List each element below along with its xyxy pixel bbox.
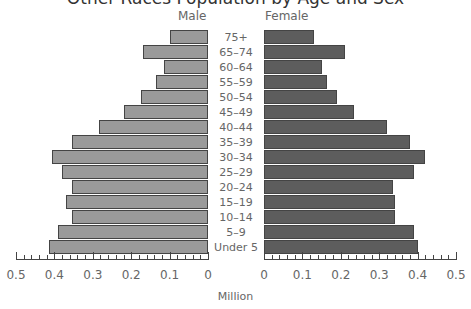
axis-tick — [395, 255, 396, 260]
male-bar — [124, 105, 208, 119]
female-tick-label: 0 — [260, 268, 268, 282]
x-axis-label: Million — [0, 290, 471, 303]
axis-tick — [418, 252, 419, 260]
age-group-label: 45–49 — [208, 105, 264, 120]
axis-tick — [154, 255, 155, 260]
male-bar — [72, 210, 208, 224]
axis-tick — [62, 255, 63, 260]
axis-tick — [31, 255, 32, 260]
male-tick-label: 0 — [204, 268, 212, 282]
male-bar — [58, 225, 208, 239]
male-bar — [49, 240, 208, 254]
axis-tick — [39, 255, 40, 260]
male-bar — [170, 30, 208, 44]
male-bar — [141, 90, 208, 104]
female-bar — [264, 150, 425, 164]
axis-tick — [100, 255, 101, 260]
male-tick-label: 0.5 — [6, 268, 25, 282]
male-tick-label: 0.4 — [45, 268, 64, 282]
male-x-axis — [16, 259, 209, 260]
axis-tick — [16, 252, 17, 260]
female-x-axis — [264, 259, 457, 260]
axis-tick — [433, 255, 434, 260]
age-group-label: 50–54 — [208, 90, 264, 105]
axis-tick — [264, 252, 265, 260]
axis-tick — [131, 252, 132, 260]
axis-tick — [302, 252, 303, 260]
axis-tick — [456, 252, 457, 260]
female-bar — [264, 180, 393, 194]
female-bar — [264, 165, 414, 179]
axis-tick — [177, 255, 178, 260]
female-label: Female — [265, 9, 308, 23]
age-group-label: 65–74 — [208, 45, 264, 60]
axis-tick — [310, 255, 311, 260]
axis-tick — [200, 255, 201, 260]
female-bar — [264, 195, 395, 209]
age-group-label: 25–29 — [208, 165, 264, 180]
female-bar — [264, 210, 395, 224]
axis-tick — [47, 255, 48, 260]
axis-tick — [279, 255, 280, 260]
male-bar — [164, 60, 208, 74]
male-label: Male — [178, 9, 206, 23]
female-tick-label: 0.2 — [331, 268, 350, 282]
male-bar — [99, 120, 208, 134]
axis-tick — [124, 255, 125, 260]
axis-tick — [295, 255, 296, 260]
axis-tick — [139, 255, 140, 260]
age-group-label: Under 5 — [208, 240, 264, 255]
axis-tick — [116, 255, 117, 260]
axis-tick — [287, 255, 288, 260]
male-bar — [72, 135, 208, 149]
male-bar — [62, 165, 208, 179]
axis-tick — [170, 252, 171, 260]
age-group-label: 40–44 — [208, 120, 264, 135]
male-bar — [66, 195, 208, 209]
axis-tick — [193, 255, 194, 260]
age-group-label: 15–19 — [208, 195, 264, 210]
axis-tick — [185, 255, 186, 260]
male-bar — [143, 45, 208, 59]
male-bar — [156, 75, 208, 89]
female-bar — [264, 135, 410, 149]
axis-tick — [70, 255, 71, 260]
axis-tick — [85, 255, 86, 260]
axis-tick — [208, 252, 209, 260]
axis-tick — [372, 255, 373, 260]
axis-tick — [402, 255, 403, 260]
female-bar — [264, 45, 345, 59]
age-group-label: 60–64 — [208, 60, 264, 75]
axis-tick — [364, 255, 365, 260]
age-group-label: 75+ — [208, 30, 264, 45]
axis-tick — [77, 255, 78, 260]
axis-tick — [162, 255, 163, 260]
axis-tick — [348, 255, 349, 260]
axis-tick — [341, 252, 342, 260]
age-group-label: 5–9 — [208, 225, 264, 240]
age-group-label: 20–24 — [208, 180, 264, 195]
age-group-label: 30–34 — [208, 150, 264, 165]
axis-tick — [333, 255, 334, 260]
female-bar — [264, 225, 414, 239]
axis-tick — [147, 255, 148, 260]
axis-tick — [108, 255, 109, 260]
age-group-label: 35–39 — [208, 135, 264, 150]
axis-tick — [410, 255, 411, 260]
female-bar — [264, 105, 354, 119]
axis-tick — [387, 255, 388, 260]
axis-tick — [379, 252, 380, 260]
axis-tick — [425, 255, 426, 260]
male-tick-label: 0.2 — [122, 268, 141, 282]
axis-tick — [356, 255, 357, 260]
female-bar — [264, 30, 314, 44]
female-bar — [264, 90, 337, 104]
axis-tick — [272, 255, 273, 260]
female-tick-label: 0.1 — [293, 268, 312, 282]
axis-tick — [318, 255, 319, 260]
male-bar — [52, 150, 208, 164]
axis-tick — [24, 255, 25, 260]
male-tick-label: 0.1 — [160, 268, 179, 282]
axis-tick — [448, 255, 449, 260]
male-tick-label: 0.3 — [83, 268, 102, 282]
